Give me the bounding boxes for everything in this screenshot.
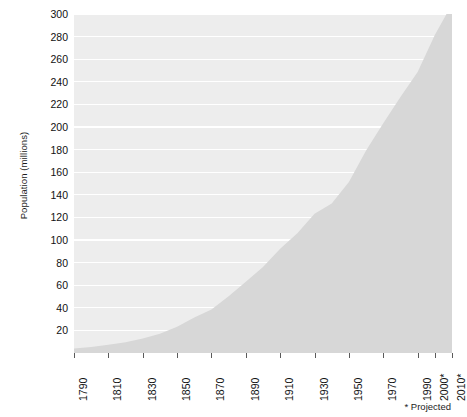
- y-tick-label: 40: [22, 303, 68, 314]
- x-tick-mark: [280, 353, 281, 358]
- y-tick-label: 60: [22, 280, 68, 291]
- y-tick-label: 120: [22, 212, 68, 223]
- x-tick-label: 1810: [112, 378, 123, 401]
- x-tick-mark: [452, 353, 453, 358]
- x-tick-mark: [143, 353, 144, 358]
- x-tick-mark: [108, 353, 109, 358]
- x-tick-label: 1850: [181, 378, 192, 401]
- x-tick-label: 1890: [250, 378, 261, 401]
- x-tick-mark: [211, 353, 212, 358]
- x-tick-label: 1910: [284, 378, 295, 401]
- plot-area: [74, 14, 452, 353]
- y-tick-label: 100: [22, 235, 68, 246]
- y-axis-tick-labels: 3002802602402202001801601401201008060402…: [20, 14, 68, 353]
- x-tick-mark: [418, 353, 419, 358]
- x-tick-label: 1990: [422, 378, 433, 401]
- x-tick-mark: [246, 353, 247, 358]
- y-tick-label: 160: [22, 167, 68, 178]
- y-tick-label: 240: [22, 77, 68, 88]
- x-tick-label: 1930: [319, 378, 330, 401]
- x-tick-mark: [435, 353, 436, 358]
- y-tick-label: 20: [22, 325, 68, 336]
- x-tick-label: 1870: [215, 378, 226, 401]
- y-tick-label: 180: [22, 145, 68, 156]
- population-area-series: [74, 14, 452, 353]
- x-tick-mark: [74, 353, 75, 358]
- x-tick-mark: [315, 353, 316, 358]
- y-tick-label: 200: [22, 122, 68, 133]
- x-tick-mark: [177, 353, 178, 358]
- y-tick-label: 280: [22, 32, 68, 43]
- x-tick-label: 1830: [147, 378, 158, 401]
- y-tick-label: 220: [22, 99, 68, 110]
- y-tick-label: 140: [22, 190, 68, 201]
- x-tick-label: 1950: [353, 378, 364, 401]
- y-tick-label: 260: [22, 54, 68, 65]
- x-tick-label: 1790: [78, 378, 89, 401]
- y-tick-label: 300: [22, 9, 68, 20]
- projected-footnote: * Projected: [405, 401, 451, 412]
- x-tick-label: 2010*: [456, 374, 467, 401]
- x-axis-tick-labels: 1790181018301850187018901910193019501970…: [74, 353, 452, 417]
- x-tick-mark: [383, 353, 384, 358]
- x-tick-label: 2000*: [439, 374, 450, 401]
- x-tick-label: 1970: [387, 378, 398, 401]
- y-tick-label: 80: [22, 258, 68, 269]
- x-tick-mark: [349, 353, 350, 358]
